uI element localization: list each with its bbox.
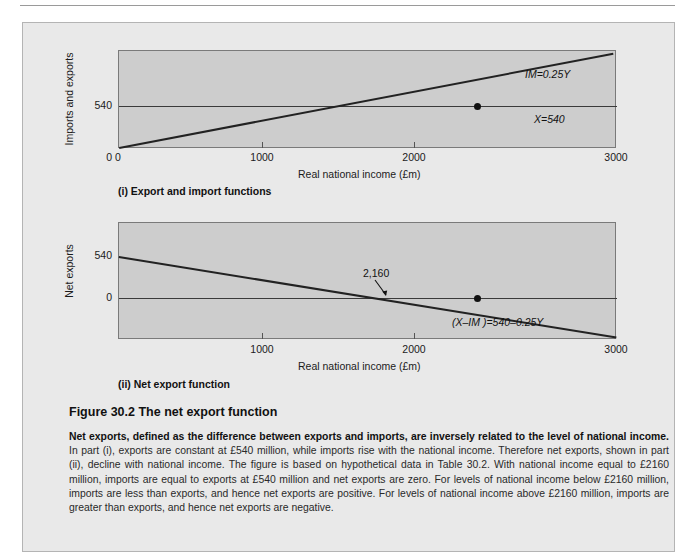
xtick-mark-1000-chart-2: [262, 333, 263, 339]
ytick-label-540-chart-1: 540: [76, 99, 112, 111]
curve-label-im: IM=0.25Y: [525, 68, 570, 80]
chart-export-import-functions: 540 0 0 1000 2000 3000 Imports and expor…: [23, 23, 676, 208]
series-line-x-constant: [119, 106, 617, 107]
xtick-label-2000-chart-2: 2000: [394, 343, 434, 355]
xtick-label-3000-chart-2: 3000: [596, 343, 636, 355]
xtick-mark-2000-chart-2: [414, 333, 415, 339]
ytick-label-0-chart-2: 0: [76, 291, 112, 303]
xtick-label-1000-chart-1: 1000: [242, 151, 282, 163]
zero-crossing-dot-chart-2: [474, 295, 481, 302]
xtick-label-3000-chart-1: 3000: [596, 151, 636, 163]
subcaption-chart-1: (i) Export and import functions: [118, 185, 271, 197]
annotation-arrow-2160: [371, 279, 393, 299]
curve-label-x: X=540: [534, 113, 565, 125]
caption-rest: In part (i), exports are constant at £54…: [69, 445, 669, 513]
figure-caption-block: Figure 30.2 The net export function Net …: [69, 405, 669, 515]
chart-net-export-function: 540 0 1000 2000 3000 Net exports Real na…: [23, 203, 676, 403]
intersection-dot-chart-1: [474, 103, 481, 110]
x-axis-title-chart-2: Real national income (£m): [298, 360, 421, 372]
caption-lead: Net exports, defined as the difference b…: [69, 431, 669, 442]
plot-area-chart-1: [118, 50, 616, 148]
figure-title: Figure 30.2 The net export function: [69, 405, 669, 419]
y-axis-title-chart-1: Imports and exports: [63, 44, 75, 154]
subcaption-chart-2: (ii) Net export function: [118, 378, 230, 390]
xtick-label-0-chart-1: 0: [98, 151, 138, 163]
xtick-mark-1000-chart-1: [262, 142, 263, 148]
figure-caption-text: Net exports, defined as the difference b…: [69, 430, 669, 515]
annotation-label-2160: 2,160: [363, 267, 389, 279]
x-axis-title-chart-1: Real national income (£m): [298, 168, 421, 180]
curve-label-net-exports: (X–IM )=540–0.25Y: [452, 316, 543, 328]
figure-panel: 540 0 0 1000 2000 3000 Imports and expor…: [22, 22, 675, 552]
xtick-label-2000-chart-1: 2000: [394, 151, 434, 163]
xtick-mark-2000-chart-1: [414, 142, 415, 148]
page-top-rule: [20, 5, 675, 6]
y-axis-title-chart-2: Net exports: [63, 234, 75, 309]
xtick-label-1000-chart-2: 1000: [242, 343, 282, 355]
ytick-label-540-chart-2: 540: [76, 249, 112, 261]
